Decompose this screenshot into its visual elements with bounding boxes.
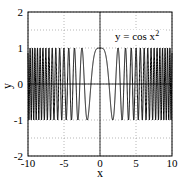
curve-annotation: y = cos x2 (115, 29, 159, 42)
x-tick-label: 10 (167, 157, 179, 169)
y-tick-label: -2 (14, 150, 23, 162)
y-tick-label: 1 (18, 42, 24, 54)
x-tick-label: -5 (59, 157, 69, 169)
chart: -10-50510 210-1-2 x y y = cos x2 (0, 0, 183, 183)
x-axis-label: x (97, 166, 103, 180)
y-axis-label: y (0, 83, 14, 89)
y-tick-label: 2 (18, 6, 24, 18)
y-tick-labels: 210-1-2 (14, 6, 24, 162)
y-tick-label: -1 (14, 114, 23, 126)
x-tick-label: 5 (133, 157, 139, 169)
y-tick-label: 0 (18, 78, 24, 90)
